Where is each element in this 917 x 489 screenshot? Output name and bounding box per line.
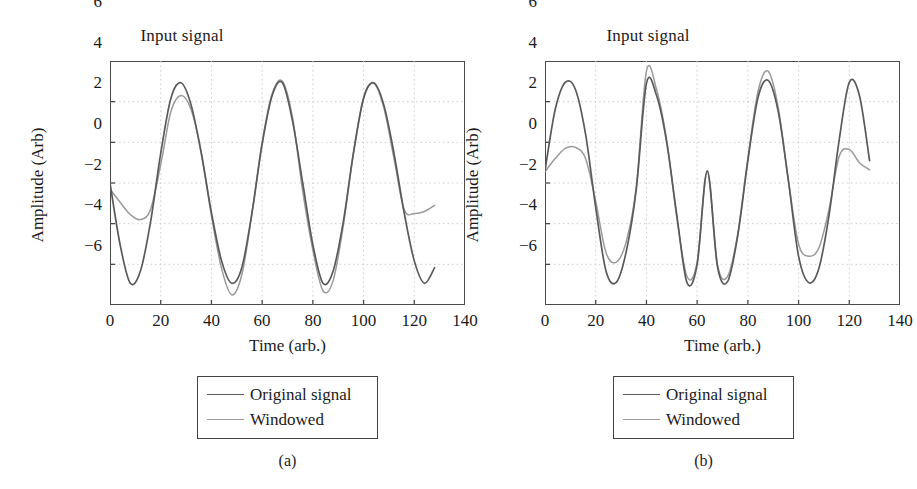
y-tick-label: 6 [94,0,103,10]
panel-caption-b: (b) [613,452,794,470]
y-tick-label: −2 [519,156,537,173]
y-tick-labels-b: 6 4 2 0 −2 −4 −6 [503,0,537,244]
x-tick-label: 80 [739,312,756,329]
y-tick-labels-a: 6 4 2 0 −2 −4 −6 [68,0,102,244]
legend-entry-original-b: Original signal [623,382,784,407]
x-tick-label: 60 [254,312,271,329]
x-tick-label: 0 [106,312,115,329]
legend-line-swatch-original [623,394,660,395]
x-axis-title-a: Time (arb.) [110,336,465,356]
x-tick-label: 40 [203,312,220,329]
chart-canvas-b [545,61,900,305]
legend-label: Windowed [250,411,324,428]
x-tick-label: 80 [304,312,321,329]
y-tick-label: −6 [84,237,102,254]
legend-entry-windowed-b: Windowed [623,407,784,432]
series-line-windowed [545,66,870,281]
panel-caption-a: (a) [197,452,378,470]
x-tick-label: 20 [152,312,169,329]
chart-canvas-a [110,61,465,305]
legend-line-swatch-windowed [207,419,244,420]
legend-entry-windowed-a: Windowed [207,407,368,432]
y-tick-label: −2 [84,156,102,173]
legend-entry-original-a: Original signal [207,382,368,407]
y-axis-title-b: Amplitude (Arb) [463,63,483,307]
y-tick-label: 4 [94,34,103,51]
x-tick-label: 20 [587,312,604,329]
y-axis-title-a: Amplitude (Arb) [28,63,48,307]
x-tick-label: 120 [837,312,863,329]
x-tick-label: 0 [541,312,550,329]
plot-area-b [545,61,900,305]
y-tick-label: 4 [529,34,538,51]
y-tick-label: 2 [529,74,538,91]
legend-label: Original signal [250,386,352,403]
legend-a: Original signal Windowed [197,376,378,439]
panel-b: Input signal Amplitude (Arb) 6 4 2 0 −2 … [436,0,894,489]
plot-title-a: Input signal [0,26,422,46]
x-tick-label: 60 [689,312,706,329]
legend-label: Original signal [666,386,768,403]
x-tick-label: 120 [402,312,428,329]
x-tick-label: 100 [786,312,812,329]
y-tick-label: −4 [519,196,537,213]
x-tick-label: 140 [887,312,913,329]
panel-a: Input signal Amplitude (Arb) 6 4 2 0 −2 … [0,0,480,489]
legend-line-swatch-windowed [623,419,660,420]
legend-b: Original signal Windowed [613,376,794,439]
x-tick-label: 40 [638,312,655,329]
series-line-original-signal [545,77,870,286]
x-tick-labels-b: 0 20 40 60 80 100 120 140 [545,312,917,334]
y-tick-label: 2 [94,74,103,91]
y-tick-label: −6 [519,237,537,254]
legend-label: Windowed [666,411,740,428]
y-tick-label: 6 [529,0,538,10]
x-tick-label: 100 [351,312,377,329]
plot-area-a [110,61,465,305]
legend-line-swatch-original [207,394,244,395]
y-tick-label: 0 [94,115,103,132]
plot-title-b: Input signal [419,26,877,46]
y-tick-label: −4 [84,196,102,213]
y-tick-label: 0 [529,115,538,132]
x-axis-title-b: Time (arb.) [545,336,900,356]
